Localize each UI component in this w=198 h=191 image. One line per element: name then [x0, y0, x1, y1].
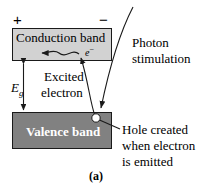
- bandgap-subscript: g: [19, 88, 24, 98]
- conduction-band-label: Conduction band: [16, 31, 105, 44]
- hole-marker: [92, 114, 100, 122]
- valence-band-label: Valence band: [26, 125, 100, 138]
- excited-electron-caption-line1: Excited: [44, 70, 84, 83]
- photon-stimulation-caption-line2: stimulation: [132, 52, 191, 65]
- hole-caption-line1: Hole created: [122, 123, 188, 136]
- hole-caption-line2: when electron: [122, 139, 195, 152]
- excited-electron-arrow: [81, 58, 95, 116]
- hole-leader-line: [100, 120, 121, 129]
- bandgap-symbol: E: [11, 80, 19, 95]
- excited-electron-caption-line2: electron: [41, 86, 83, 99]
- bandgap-energy-label: Eg: [11, 81, 23, 98]
- subfigure-caption: (a): [89, 170, 103, 182]
- electron-symbol-charge: −: [89, 45, 94, 54]
- semiconductor-band-diagram-figure: + − Conduction band Valence band Eg e− E…: [0, 0, 198, 191]
- electron-symbol-label: e−: [85, 46, 94, 58]
- hole-caption-line3: is emitted: [122, 155, 173, 168]
- negative-terminal-sign: −: [99, 12, 108, 27]
- electron-drift-wavy-arrow: [42, 51, 79, 55]
- positive-terminal-sign: +: [13, 12, 22, 27]
- photon-stimulation-caption-line1: Photon: [132, 36, 169, 49]
